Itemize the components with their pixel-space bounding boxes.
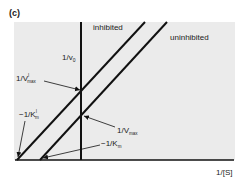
x-axis-label: 1/[S]	[216, 168, 232, 177]
uninhibited-label: uninhibited	[170, 33, 209, 42]
panel-label: (c)	[9, 8, 20, 18]
svg-text:−1/KIm: −1/KIm	[19, 109, 39, 120]
lineweaver-burk-diagram: (c) inhibited uninhibited 1/v0 1/VImax 1…	[0, 0, 245, 184]
inhibited-label: inhibited	[93, 23, 123, 32]
